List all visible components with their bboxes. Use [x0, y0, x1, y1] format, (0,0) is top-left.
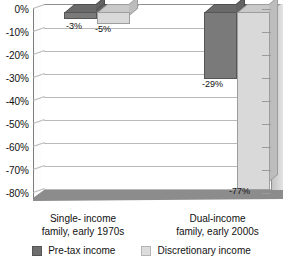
right-axis-tick	[262, 193, 271, 194]
bar-front-face	[204, 12, 237, 79]
right-axis-tick	[262, 9, 271, 10]
bar-chart: 0% -10% -20% -30% -40% -50% -60% -70% -8…	[0, 0, 283, 277]
legend-swatch-icon	[32, 246, 42, 256]
y-axis-tick-label: -30%	[0, 74, 29, 84]
x-axis-category-line2: family, early 1970s	[18, 225, 148, 238]
legend-item-pretax-income[interactable]: Pre-tax income	[32, 245, 115, 256]
legend-item-discretionary-income[interactable]: Discretionary income	[141, 245, 250, 256]
y-axis-tick-label: -10%	[0, 28, 29, 38]
right-axis-tick	[262, 124, 271, 125]
x-axis-category-line1: Dual-income	[155, 212, 280, 225]
legend-swatch-icon	[141, 246, 151, 256]
x-axis-category-label-single: Single- income family, early 1970s	[18, 212, 148, 238]
bar-side-face	[269, 0, 278, 182]
right-axis-tick	[262, 170, 271, 171]
legend-item-label: Discretionary income	[157, 245, 250, 256]
chart-left-wall	[33, 8, 44, 198]
y-axis-tick-label: -40%	[0, 97, 29, 107]
right-axis-tick	[262, 101, 271, 102]
y-axis-tick-label: -70%	[0, 166, 29, 176]
right-axis-tick	[262, 55, 271, 56]
y-axis-tick-label: -50%	[0, 120, 29, 130]
plot-area: -3% -5% -29% -77%	[33, 0, 283, 205]
x-axis-category-line1: Single- income	[18, 212, 148, 225]
legend: Pre-tax income Discretionary income	[0, 245, 283, 256]
y-axis-tick-label: -20%	[0, 51, 29, 61]
bar-front-face	[64, 12, 97, 19]
bar-value-label-pretax-single: -3%	[66, 22, 82, 31]
bar-discretionary-single[interactable]	[97, 12, 130, 24]
x-axis-category-line2: family, early 2000s	[155, 225, 280, 238]
right-axis-tick	[262, 147, 271, 148]
right-axis-tick	[262, 32, 271, 33]
bar-front-face	[97, 12, 130, 24]
y-axis-tick-label: -80%	[0, 189, 29, 199]
right-axis-tick	[262, 78, 271, 79]
x-axis-category-label-dual: Dual-income family, early 2000s	[155, 212, 280, 238]
legend-item-label: Pre-tax income	[48, 245, 115, 256]
bar-pretax-dual[interactable]	[204, 12, 237, 79]
y-axis-tick-label: -60%	[0, 143, 29, 153]
bar-value-label-discretionary-single: -5%	[95, 25, 111, 34]
bar-value-label-pretax-dual: -29%	[202, 80, 223, 89]
y-axis-tick-label: 0%	[0, 5, 29, 15]
bar-pretax-single[interactable]	[64, 12, 97, 19]
bar-value-label-discretionary-dual: -77%	[229, 187, 250, 196]
